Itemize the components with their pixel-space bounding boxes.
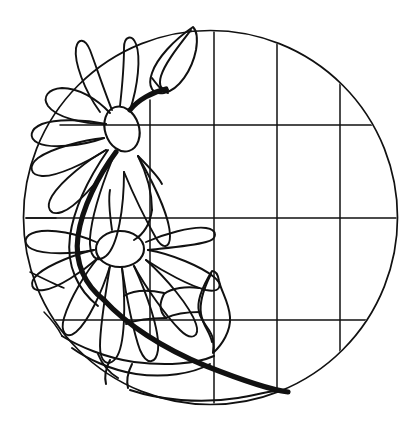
left-cell-line-3 (44, 312, 62, 336)
upper-flower-core (99, 102, 146, 156)
center-leaf-group (164, 271, 230, 353)
center-leaf-left-joint (164, 287, 199, 294)
upper-flower-group (32, 38, 170, 260)
bottom-leaf-5 (127, 364, 132, 388)
artwork-canvas (0, 0, 420, 436)
lower-petal-left-1 (26, 231, 96, 254)
upper-petal-5 (90, 160, 124, 259)
left-cell-divisions (26, 218, 64, 336)
mid-left-leaf-group (124, 291, 166, 324)
lower-flower-group (26, 190, 220, 363)
top-bud-group (150, 27, 197, 93)
bottom-large-leaf (130, 390, 288, 401)
upper-petal-1 (46, 88, 110, 124)
lower-petal-mid-2 (122, 266, 158, 361)
upper-petal-top-1 (76, 41, 112, 112)
stem-bottom-sweep (104, 300, 288, 392)
center-leaf-left-joint-2 (166, 312, 200, 318)
mid-leaf-upper (124, 291, 164, 296)
stained-glass-roundel (0, 0, 420, 436)
top-bud-vein (160, 30, 191, 90)
lower-flower-core (96, 231, 144, 267)
lower-petal-top (109, 190, 112, 230)
